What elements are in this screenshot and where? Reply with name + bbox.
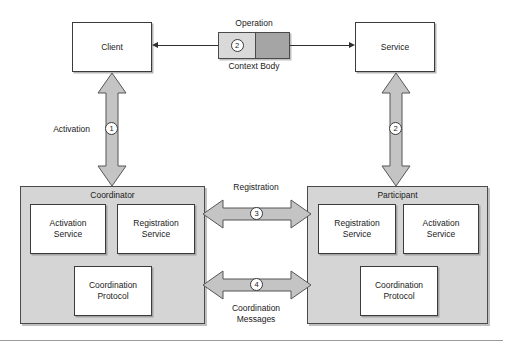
activation-badge: 1 [105, 122, 118, 135]
registration-badge: 3 [250, 207, 263, 220]
connector-line [290, 45, 350, 46]
service-participant-badge: 2 [389, 122, 402, 135]
participant-protocol-line1: Coordination [375, 280, 423, 290]
participant-service-1-line2: Service [427, 229, 455, 239]
coordinator-title: Coordinator [21, 190, 204, 200]
participant-coordination-protocol-box: Coordination Protocol [360, 266, 438, 316]
participant-container: Participant Registration Service Activat… [307, 186, 488, 324]
participant-service-0-line2: Service [343, 229, 371, 239]
operation-badge: 2 [231, 39, 244, 52]
client-box-label: Client [101, 42, 123, 53]
message-to-client-arrow [152, 42, 218, 49]
registration-label: Registration [216, 182, 296, 193]
coordination-architecture-diagram: Client Service Operation Context Body 2 … [0, 0, 508, 347]
operation-body-segment [256, 33, 289, 58]
coordinator-protocol-line1: Coordination [89, 280, 137, 290]
operation-message-block: 2 [218, 32, 290, 59]
coordination-messages-badge: 4 [250, 278, 263, 291]
coordinator-coordination-protocol-box: Coordination Protocol [74, 266, 152, 316]
coordination-messages-label: Coordination Messages [216, 303, 296, 324]
operation-label: Operation [214, 18, 294, 29]
context-body-label: Context Body [214, 61, 294, 72]
connector-line [157, 45, 218, 46]
participant-activation-service-box: Activation Service [403, 204, 479, 254]
participant-service-0-line1: Registration [334, 218, 379, 228]
coordinator-activation-service-box: Activation Service [30, 204, 106, 254]
coordinator-service-0-line1: Activation [50, 218, 87, 228]
coordinator-service-0-line2: Service [54, 229, 82, 239]
service-box: Service [355, 22, 435, 72]
client-box: Client [72, 22, 152, 72]
message-to-service-arrow [290, 42, 355, 49]
coordinator-protocol-line2: Protocol [97, 291, 128, 301]
coordinator-registration-service-box: Registration Service [117, 204, 195, 254]
participant-registration-service-box: Registration Service [318, 204, 396, 254]
coordinator-container: Coordinator Activation Service Registrat… [20, 186, 205, 324]
participant-service-1-line1: Activation [423, 218, 460, 228]
coordinator-service-1-line1: Registration [133, 218, 178, 228]
participant-title: Participant [308, 190, 487, 200]
operation-context-segment: 2 [219, 33, 256, 58]
figure-bottom-rule [0, 340, 503, 341]
coordinator-service-1-line2: Service [142, 229, 170, 239]
arrowhead-right-icon [349, 42, 355, 48]
service-box-label: Service [381, 42, 409, 53]
activation-label: Activation [20, 124, 90, 135]
participant-protocol-line2: Protocol [383, 291, 414, 301]
